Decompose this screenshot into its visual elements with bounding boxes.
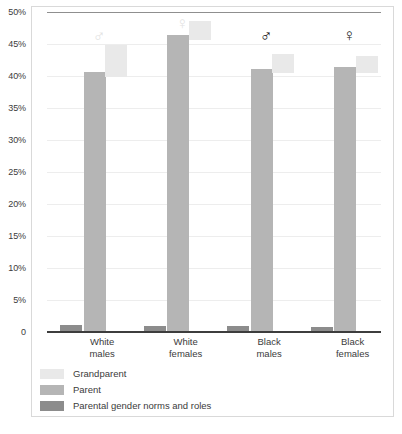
legend-swatch [40, 385, 64, 395]
x-axis-category-label: Whitemales [89, 336, 114, 360]
bar-parental-gender-norms-and-roles [60, 325, 82, 331]
legend-swatch [40, 369, 64, 379]
y-axis-tick-label: 0 [21, 327, 26, 337]
y-axis-tick-label: 10% [8, 263, 26, 273]
bar-grandparent [105, 45, 127, 76]
bar-grandparent [272, 54, 294, 73]
x-axis-category-label-line: males [256, 348, 281, 360]
male-symbol-icon: ♂ [259, 27, 272, 44]
y-axis-tick-label: 40% [8, 71, 26, 81]
legend-label: Grandparent [73, 368, 126, 379]
x-axis-category-label-line: females [169, 348, 202, 360]
chart-legend: GrandparentParentParental gender norms a… [40, 366, 380, 414]
bar-parent [251, 69, 273, 331]
bar-group [298, 12, 382, 332]
y-axis-tick-label: 5% [13, 295, 26, 305]
x-axis-category-label-line: males [89, 348, 114, 360]
female-symbol-icon: ♀ [176, 15, 189, 32]
y-axis-tick-label: 15% [8, 231, 26, 241]
male-symbol-icon: ♂ [92, 28, 105, 45]
bar-parent [84, 72, 106, 331]
bar-group [131, 12, 215, 332]
legend-label: Parent [73, 384, 101, 395]
x-axis-category-label-line: Black [256, 336, 281, 348]
female-symbol-icon: ♀ [343, 27, 356, 44]
legend-item[interactable]: Parental gender norms and roles [40, 398, 380, 413]
legend-swatch [40, 401, 64, 411]
chart-figure: 50%45%40%35%30%25%20%15%10%5%0 ♂♀♂♀ Whit… [0, 0, 402, 434]
y-axis-tick-label: 20% [8, 199, 26, 209]
x-axis-category-label-line: White [89, 336, 114, 348]
y-axis-tick-label: 45% [8, 39, 26, 49]
x-axis-category-label: Blackmales [256, 336, 281, 360]
y-axis: 50%45%40%35%30%25%20%15%10%5%0 [0, 6, 30, 332]
y-axis-tick-label: 50% [8, 7, 26, 17]
y-axis-tick-label: 25% [8, 167, 26, 177]
legend-item[interactable]: Grandparent [40, 366, 380, 381]
y-axis-tick-label: 35% [8, 103, 26, 113]
x-axis-category-label: Blackfemales [336, 336, 369, 360]
x-axis-category-label: Whitefemales [169, 336, 202, 360]
bar-group [214, 12, 298, 332]
bar-grandparent [189, 21, 211, 40]
bar-parental-gender-norms-and-roles [144, 326, 166, 331]
legend-item[interactable]: Parent [40, 382, 380, 397]
bar-parental-gender-norms-and-roles [311, 327, 333, 331]
y-axis-tick-label: 30% [8, 135, 26, 145]
plot-area: ♂♀♂♀ [47, 12, 381, 332]
bar-parent [167, 35, 189, 331]
bar-parent [334, 67, 356, 331]
x-axis-category-label-line: females [336, 348, 369, 360]
x-axis-category-label-line: White [169, 336, 202, 348]
bar-grandparent [356, 56, 378, 73]
x-axis-category-label-line: Black [336, 336, 369, 348]
x-axis-labels: WhitemalesWhitefemalesBlackmalesBlackfem… [47, 336, 381, 366]
bar-parental-gender-norms-and-roles [227, 326, 249, 331]
legend-label: Parental gender norms and roles [73, 400, 211, 411]
bar-group [47, 12, 131, 332]
